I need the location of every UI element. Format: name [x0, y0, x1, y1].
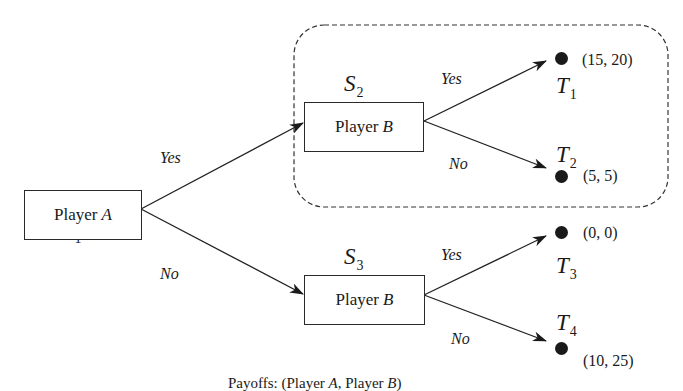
payoff-t3: (0, 0)	[583, 225, 618, 241]
state-letter: S	[344, 244, 356, 269]
node-player-b-s2: PlayerB	[304, 102, 424, 152]
player-name: A	[102, 205, 112, 225]
edge-label-s2-yes: Yes	[441, 71, 462, 87]
payoffs-caption: Payoffs: (Player A, Player B)	[228, 376, 401, 391]
edge-label-s3-yes: Yes	[441, 247, 462, 263]
node-player-b-s3: PlayerB	[304, 275, 425, 325]
state-label-s3: S3	[344, 245, 364, 273]
terminal-label-t2: T2	[556, 143, 577, 171]
terminal-subscript: 3	[570, 267, 577, 282]
caption-player-a: A	[329, 375, 338, 391]
edge-label-s2-no: No	[449, 156, 468, 172]
payoff-t4: (10, 25)	[583, 353, 634, 369]
terminal-letter: T	[556, 253, 569, 278]
caption-prefix: Payoffs: (Player	[228, 375, 329, 391]
terminal-subscript: 1	[570, 87, 577, 102]
payoff-t2: (5, 5)	[583, 168, 618, 184]
player-prefix: Player	[54, 205, 97, 225]
edge-s3-t3	[424, 236, 546, 295]
terminal-label-t1: T1	[556, 74, 577, 102]
terminal-letter: T	[556, 142, 569, 167]
caption-suffix: )	[396, 375, 401, 391]
terminal-label-t4: T4	[556, 311, 577, 339]
node-player-a: PlayerA	[24, 190, 142, 240]
terminal-dot-t2	[555, 170, 568, 183]
terminal-letter: T	[556, 310, 569, 335]
state-subscript: 2	[357, 85, 364, 100]
edge-label-s3-no: No	[451, 331, 470, 347]
player-prefix: Player	[335, 117, 378, 137]
player-prefix: Player	[336, 290, 379, 310]
state-label-s2: S2	[344, 72, 364, 100]
terminal-dot-t3	[555, 226, 568, 239]
edge-label-s1-no: No	[160, 266, 179, 282]
player-name: B	[383, 117, 393, 137]
edge-s3-t4	[424, 295, 546, 341]
edge-label-s1-yes: Yes	[160, 150, 181, 166]
edge-s1-s2	[141, 123, 303, 209]
state-letter: S	[344, 71, 356, 96]
terminal-label-t3: T3	[556, 254, 577, 282]
terminal-subscript: 4	[570, 324, 577, 339]
terminal-dot-t4	[555, 342, 568, 355]
state-subscript: 3	[357, 258, 364, 273]
terminal-letter: T	[556, 73, 569, 98]
terminal-dot-t1	[555, 52, 568, 65]
player-name: B	[383, 290, 393, 310]
terminal-subscript: 2	[570, 156, 577, 171]
caption-mid: , Player	[338, 375, 388, 391]
payoff-t1: (15, 20)	[582, 52, 633, 68]
edge-s2-t2	[424, 121, 546, 168]
